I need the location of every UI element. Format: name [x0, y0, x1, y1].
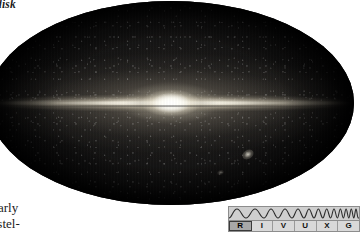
- figure-page: disk arly rstel-: [0, 0, 364, 234]
- caption-fragment-line1: arly: [0, 201, 18, 214]
- rivuxg-spectrum-indicator: R I V U X G: [228, 206, 360, 232]
- band-cell-v[interactable]: V: [273, 221, 295, 231]
- band-cell-x[interactable]: X: [317, 221, 339, 231]
- band-label-v: V: [281, 222, 287, 230]
- sky-ellipse: [0, 1, 354, 205]
- band-label-i: I: [261, 222, 264, 230]
- band-cell-i[interactable]: I: [252, 221, 274, 231]
- band-label-u: U: [302, 222, 308, 230]
- band-label-x: X: [324, 222, 330, 230]
- all-sky-map: [0, 1, 354, 205]
- wavelength-band-cells: R I V U X G: [229, 221, 359, 231]
- edge-vignette: [0, 1, 354, 205]
- wavelength-wave-graphic: [229, 207, 359, 221]
- band-label-r: R: [237, 222, 243, 230]
- band-label-g: G: [345, 222, 352, 230]
- band-cell-u[interactable]: U: [295, 221, 317, 231]
- band-cell-g[interactable]: G: [338, 221, 359, 231]
- caption-fragment-line2: rstel-: [0, 217, 20, 230]
- band-cell-r[interactable]: R: [229, 221, 252, 231]
